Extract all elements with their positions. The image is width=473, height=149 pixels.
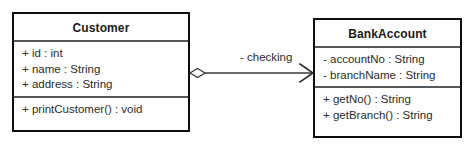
attribute-item: + address : String — [22, 77, 188, 93]
attribute-item: + id : int — [22, 46, 188, 62]
attributes-compartment-customer: + id : int + name : String + address : S… — [14, 42, 188, 98]
operation-item: + getBranch() : String — [323, 108, 460, 124]
class-name-bankaccount: BankAccount — [315, 20, 460, 48]
attributes-compartment-bankaccount: - accountNo : String - branchName : Stri… — [315, 48, 460, 88]
uml-class-diagram-canvas: Customer + id : int + name : String + ad… — [0, 0, 473, 149]
operations-compartment-customer: + printCustomer() : void — [14, 98, 188, 131]
operations-compartment-bankaccount: + getNo() : String + getBranch() : Strin… — [315, 88, 460, 136]
class-box-bankaccount[interactable]: BankAccount - accountNo : String - branc… — [313, 18, 462, 138]
aggregation-diamond-icon — [190, 69, 205, 78]
class-box-customer[interactable]: Customer + id : int + name : String + ad… — [12, 12, 190, 132]
attribute-item: - accountNo : String — [323, 52, 460, 68]
operation-item: + getNo() : String — [323, 92, 460, 108]
attribute-item: + name : String — [22, 62, 188, 78]
attribute-item: - branchName : String — [323, 68, 460, 84]
class-name-customer: Customer — [14, 14, 188, 42]
association-role-label: - checking — [240, 50, 292, 64]
open-arrowhead-icon — [300, 64, 313, 82]
operation-item: + printCustomer() : void — [22, 102, 188, 118]
